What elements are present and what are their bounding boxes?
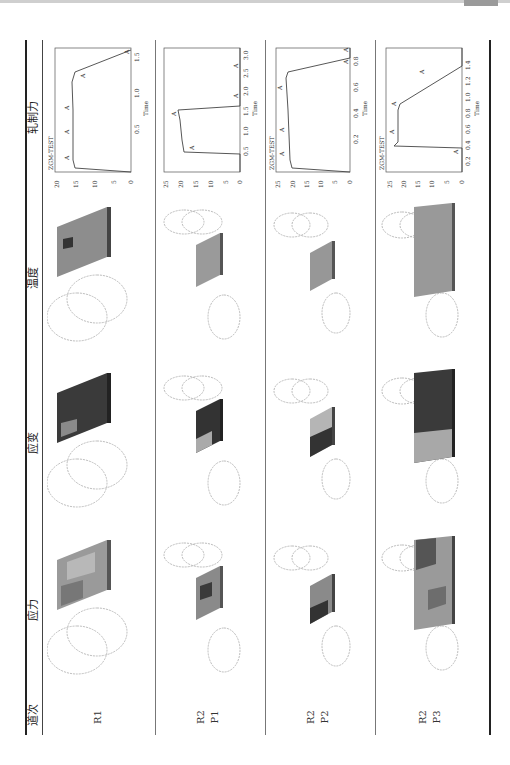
header-stress: 应力 [26,525,42,695]
stress-figure [380,530,484,690]
svg-text:0.5: 0.5 [242,146,249,156]
svg-text:A: A [123,49,130,55]
svg-text:A: A [276,85,283,91]
temperature-figure [160,197,260,357]
svg-text:0.8: 0.8 [352,56,359,66]
svg-text:0.4: 0.4 [352,108,359,118]
svg-text:1.0: 1.0 [242,126,249,136]
strain-figure [160,363,260,523]
svg-text:1.5: 1.5 [242,106,249,116]
rolling-force-chart: ZGM-TEST 2520 1510 50 0.20.4 0.60.8 AA A… [268,42,372,190]
chart-title: ZGM-TEST [378,137,385,170]
strain-figure [380,363,484,523]
svg-text:A: A [388,129,395,135]
svg-text:A: A [278,127,285,133]
header-temperature: 温度 [26,195,42,360]
svg-text:5: 5 [222,180,229,184]
svg-text:0.4: 0.4 [464,140,471,150]
svg-text:3.0: 3.0 [242,50,249,60]
svg-text:A: A [63,155,70,161]
chart-title: ZGM-TEST [47,137,54,170]
rotated-table-container: 道次 应力 应变 温度 轧制力 R1 [25,40,490,735]
svg-text:5: 5 [110,180,117,184]
temperature-figure [47,197,151,357]
pass-line: R2 [194,699,208,735]
svg-text:A: A [188,145,195,151]
svg-text:0: 0 [127,180,134,184]
svg-text:A: A [232,93,239,99]
svg-text:A: A [79,73,86,79]
rolling-force-chart: 2520 1510 50 0.51.0 1.52.0 2.53.0 AA AA … [158,42,262,190]
svg-text:A: A [63,129,70,135]
svg-text:A: A [63,105,70,111]
svg-text:A: A [232,63,239,69]
svg-text:A: A [170,111,177,117]
svg-text:20: 20 [177,180,184,188]
header-pass: 道次 [26,695,42,735]
stress-figure [160,530,260,690]
svg-text:0.8: 0.8 [464,108,471,118]
svg-text:1.0: 1.0 [464,92,471,102]
svg-text:15: 15 [303,180,310,188]
rolling-force-chart: ZGM-TEST 2015 1050 0.51.01.5 AAA AA Time [45,42,153,190]
svg-text:A: A [418,69,425,75]
table-row: R2 P3 [376,40,489,735]
page-number-tab [464,0,498,6]
pass-line: R2 [304,699,318,735]
svg-text:25: 25 [386,180,393,188]
pass-line: P2 [318,699,332,735]
svg-text:1.0: 1.0 [133,88,140,98]
stress-figure [270,530,370,690]
svg-text:15: 15 [414,180,421,188]
svg-text:15: 15 [192,180,199,188]
pass-label: R2 P3 [416,699,444,735]
svg-text:15: 15 [72,180,79,188]
svg-text:A: A [278,151,285,157]
svg-text:5: 5 [331,180,338,184]
svg-text:10: 10 [207,180,214,188]
svg-text:0.5: 0.5 [133,124,140,134]
strain-figure [47,363,151,523]
pass-line: R2 [416,699,430,735]
svg-text:0: 0 [346,180,353,184]
strain-figure [270,363,370,523]
chart-xlabel: Time [142,100,149,116]
svg-text:20: 20 [53,180,60,188]
svg-text:0.2: 0.2 [352,134,359,144]
svg-text:A: A [342,59,349,65]
svg-text:5: 5 [443,180,450,184]
svg-text:10: 10 [428,180,435,188]
pass-label: R2 P2 [304,699,332,735]
svg-text:0.6: 0.6 [352,82,359,92]
svg-text:0: 0 [236,180,243,184]
table-row: R1 [43,40,155,735]
pass-label: R2 P1 [194,699,222,735]
chart-xlabel: Time [473,100,480,116]
table-row: R2 P1 [156,40,265,735]
svg-text:20: 20 [400,180,407,188]
pass-line: P3 [430,699,444,735]
header-strain: 应变 [26,360,42,525]
svg-text:0: 0 [458,180,465,184]
svg-text:2.5: 2.5 [242,68,249,78]
results-table: 道次 应力 应变 温度 轧制力 R1 [25,40,490,735]
chart-xlabel: Time [361,100,368,116]
svg-text:A: A [390,101,397,107]
temperature-figure [270,197,370,357]
svg-text:25: 25 [274,180,281,188]
svg-text:A: A [342,47,349,53]
svg-text:2.0: 2.0 [242,86,249,96]
chart-title: ZGM-TEST [268,137,275,170]
svg-text:1.4: 1.4 [464,60,471,70]
table-bottom-rule [489,40,491,735]
svg-text:10: 10 [317,180,324,188]
svg-text:20: 20 [289,180,296,188]
rolling-force-chart: ZGM-TEST 2520 1510 50 0.20.4 0.60.8 1.01… [378,42,486,190]
temperature-figure [380,197,484,357]
stress-figure [47,530,151,690]
pass-label: R1 [91,699,105,735]
header-rolling-force: 轧制力 [26,40,42,195]
pass-line: P1 [208,699,222,735]
page-top-rule [0,0,510,3]
svg-text:1.5: 1.5 [133,52,140,62]
